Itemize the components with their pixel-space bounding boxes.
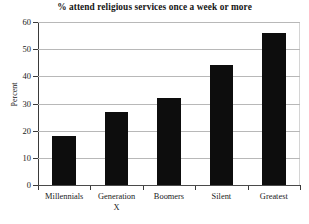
gridline-40 [38,76,300,77]
x-tick-mark-edge-0 [38,186,39,190]
bar-greatest [262,33,286,185]
y-tick-label-50: 50 [5,45,31,54]
y-tick-label-0: 0 [5,181,31,190]
x-tick-mark-edge-5 [300,186,301,190]
x-tick-mark-2 [143,186,144,190]
y-tick-label-30: 30 [5,100,31,109]
x-tick-mark-1 [90,186,91,190]
x-axis-tick-labels: MillennialsGenerationXBoomersSilentGreat… [38,191,300,224]
x-tick-label-silent: Silent [195,191,247,202]
bar-silent [210,65,234,185]
y-tick-label-40: 40 [5,72,31,81]
x-tick-label-millennials: Millennials [38,191,90,202]
x-tick-label-generation-x: GenerationX [90,191,142,213]
y-tick-mark-50 [33,49,38,50]
x-tick-mark-4 [248,186,249,190]
gridline-60 [38,22,300,23]
y-tick-mark-20 [33,131,38,132]
y-tick-mark-10 [33,158,38,159]
bar-generation-x [105,112,129,185]
y-tick-label-60: 60 [5,18,31,27]
y-tick-mark-30 [33,104,38,105]
gridline-50 [38,49,300,50]
bar-millennials [52,136,76,185]
y-axis-tick-labels: 0102030405060 [0,0,31,224]
y-tick-mark-40 [33,76,38,77]
bar-chart-figure: % attend religious services once a week … [0,0,309,224]
chart-title: % attend religious services once a week … [0,2,309,12]
bar-boomers [157,98,181,185]
x-tick-mark-3 [195,186,196,190]
gridline-0 [38,185,300,186]
y-tick-label-10: 10 [5,154,31,163]
y-tick-mark-60 [33,22,38,23]
plot-area [38,22,300,185]
x-tick-label-greatest: Greatest [248,191,300,202]
x-tick-label-boomers: Boomers [143,191,195,202]
y-tick-label-20: 20 [5,127,31,136]
